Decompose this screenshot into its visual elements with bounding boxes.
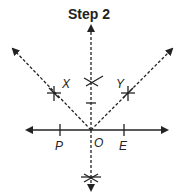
label-x: X: [61, 77, 71, 91]
diagram-canvas: Step 2: [0, 0, 178, 194]
label-o: O: [94, 136, 103, 150]
arc-mark-top: [84, 76, 103, 103]
label-p: P: [55, 139, 63, 153]
label-e: E: [119, 139, 128, 153]
diagonal-left-dashed: [13, 49, 91, 130]
label-y: Y: [116, 77, 125, 91]
arc-mark-x: [47, 86, 61, 101]
construction-diagram: X Y O P E: [0, 0, 178, 194]
